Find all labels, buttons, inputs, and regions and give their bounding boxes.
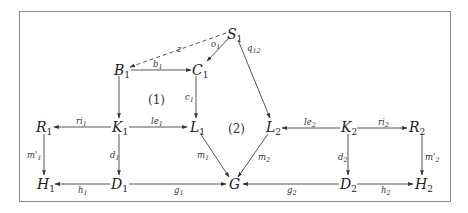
- node-H1: H1: [36, 176, 55, 194]
- commutative-diagram: S1 B1 C1 R1 K1 L1 L2 K2 R2 H1 D1 G D2 H2…: [0, 0, 468, 213]
- label-g2: g2: [287, 185, 297, 197]
- label-le2: le2: [304, 117, 316, 129]
- label-o1: o1: [211, 39, 220, 51]
- node-D1: D1: [110, 176, 128, 194]
- node-K2: K2: [340, 119, 357, 137]
- node-B1: B1: [113, 62, 130, 80]
- label-g1: g1: [174, 185, 184, 197]
- label-z: z: [176, 44, 182, 54]
- node-K1: K1: [111, 119, 128, 137]
- node-L2: L2: [265, 119, 281, 137]
- label-d2: d2: [338, 152, 348, 164]
- label-b1: b1: [153, 59, 163, 71]
- label-m2p: m'2: [425, 152, 440, 164]
- region-1-label: (1): [148, 93, 165, 107]
- label-d1: d1: [110, 150, 120, 162]
- label-le1: le1: [151, 116, 163, 128]
- label-ri1: ri1: [76, 116, 87, 128]
- label-m1p: m'1: [27, 150, 42, 162]
- node-D2: D2: [339, 176, 357, 194]
- node-S1: S1: [227, 26, 242, 44]
- label-c1: c1: [185, 92, 194, 104]
- node-R1: R1: [35, 119, 52, 137]
- label-h2: h2: [381, 185, 391, 197]
- label-m1: m1: [197, 150, 209, 162]
- node-G: G: [229, 176, 240, 192]
- region-2-label: (2): [228, 122, 245, 136]
- label-m2: m2: [258, 152, 270, 164]
- label-ri2: ri2: [378, 117, 389, 129]
- label-h1: h1: [78, 185, 88, 197]
- label-q12: q12: [247, 43, 261, 55]
- node-L1: L1: [189, 119, 205, 137]
- node-C1: C1: [192, 62, 208, 80]
- node-H2: H2: [414, 176, 433, 194]
- node-R2: R2: [408, 119, 425, 137]
